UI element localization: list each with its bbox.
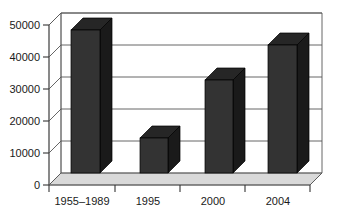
bar-side-face — [100, 18, 112, 173]
plot-left-wall — [49, 13, 61, 185]
x-category-label: 2000 — [201, 195, 225, 207]
y-tick-label: 10000 — [9, 147, 40, 159]
x-category-label: 1995 — [136, 195, 160, 207]
y-tick-label: 30000 — [9, 83, 40, 95]
y-tick-label: 0 — [34, 179, 40, 191]
x-category-label: 2004 — [266, 195, 290, 207]
chart-canvas: 50000 40000 30000 20000 10000 0 — [0, 0, 339, 216]
bar-front-face — [71, 30, 100, 173]
y-axis-ticks — [43, 25, 49, 185]
bar-front-face — [268, 45, 297, 173]
x-axis-ticks — [49, 185, 310, 192]
y-tick-label: 50000 — [9, 19, 40, 31]
bar-front-face — [140, 138, 168, 173]
bar-series-item — [71, 18, 112, 173]
bar-side-face — [233, 68, 245, 173]
plot-floor — [49, 173, 322, 185]
bar-series-item — [205, 68, 245, 173]
bar-series-item — [140, 126, 180, 173]
x-category-label: 1955–1989 — [54, 195, 109, 207]
y-tick-label: 20000 — [9, 115, 40, 127]
x-axis-category-labels: 1955–1989 1995 2000 2004 — [54, 195, 290, 207]
bar-chart: 50000 40000 30000 20000 10000 0 — [0, 0, 339, 216]
bar-front-face — [205, 80, 233, 173]
bar-series-item — [268, 33, 309, 173]
bar-side-face — [297, 33, 309, 173]
y-axis-tick-labels: 50000 40000 30000 20000 10000 0 — [9, 19, 40, 191]
y-tick-label: 40000 — [9, 51, 40, 63]
